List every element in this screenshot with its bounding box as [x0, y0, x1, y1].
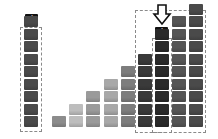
- block: [155, 116, 169, 127]
- block: [155, 91, 169, 102]
- block-size-diagram: 大 小: [0, 0, 218, 139]
- block: [24, 91, 38, 102]
- block: [155, 29, 169, 40]
- block: [104, 79, 118, 90]
- block: [155, 79, 169, 90]
- block: [172, 54, 186, 65]
- block: [24, 66, 38, 77]
- block: [172, 41, 186, 52]
- block: [104, 104, 118, 115]
- block: [52, 116, 66, 127]
- block: [121, 116, 135, 127]
- block: [104, 116, 118, 127]
- block: [189, 116, 203, 127]
- block: [24, 116, 38, 127]
- block: [138, 54, 152, 65]
- block: [24, 104, 38, 115]
- block: [155, 41, 169, 52]
- block: [24, 41, 38, 52]
- block: [24, 79, 38, 90]
- block: [189, 79, 203, 90]
- block: [24, 16, 38, 27]
- block: [172, 91, 186, 102]
- block: [121, 91, 135, 102]
- block: [155, 66, 169, 77]
- block: [69, 104, 83, 115]
- block: [172, 16, 186, 27]
- block: [189, 29, 203, 40]
- block: [189, 66, 203, 77]
- block: [86, 116, 100, 127]
- block: [24, 29, 38, 40]
- block: [138, 116, 152, 127]
- block: [121, 66, 135, 77]
- block: [172, 104, 186, 115]
- block: [86, 104, 100, 115]
- block: [172, 79, 186, 90]
- block: [138, 79, 152, 90]
- block: [24, 54, 38, 65]
- block: [155, 104, 169, 115]
- block: [121, 79, 135, 90]
- block: [86, 91, 100, 102]
- block: [138, 66, 152, 77]
- block: [189, 54, 203, 65]
- block: [138, 104, 152, 115]
- block: [189, 104, 203, 115]
- block: [121, 104, 135, 115]
- block: [172, 29, 186, 40]
- block: [104, 91, 118, 102]
- block: [155, 54, 169, 65]
- block: [189, 4, 203, 15]
- block: [138, 91, 152, 102]
- block: [189, 91, 203, 102]
- down-arrow-icon: [152, 4, 172, 26]
- block: [172, 116, 186, 127]
- block: [189, 16, 203, 27]
- block: [172, 66, 186, 77]
- block: [189, 41, 203, 52]
- block: [69, 116, 83, 127]
